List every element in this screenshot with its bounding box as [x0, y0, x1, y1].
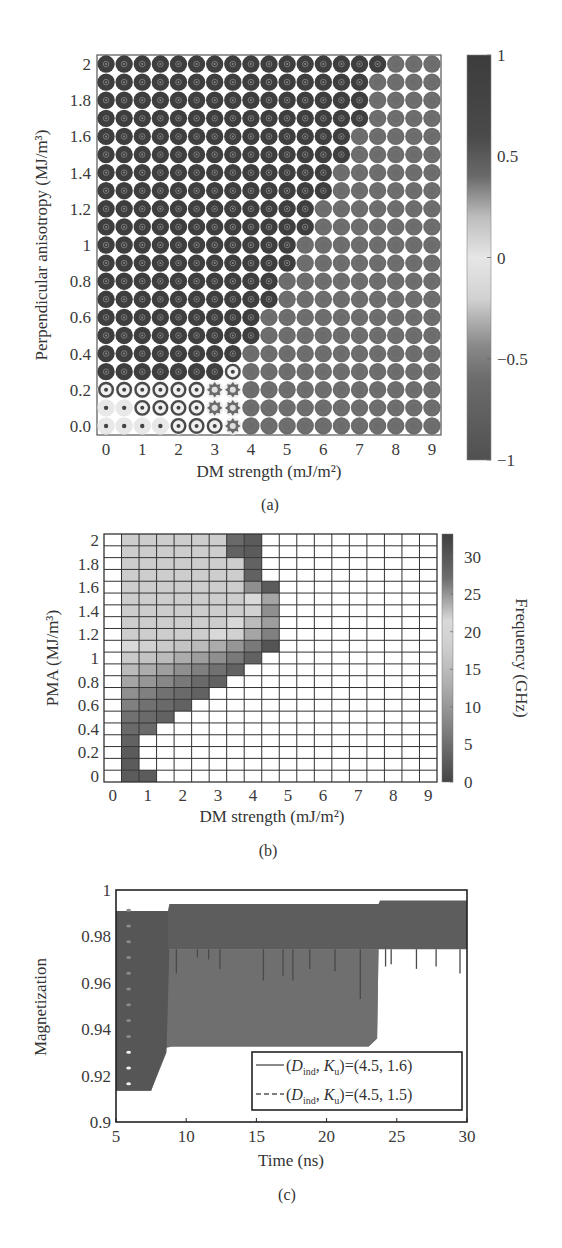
skyrmion-cell: [423, 381, 440, 398]
skyrmion-cell: [315, 218, 332, 235]
heatmap-cell: [174, 688, 192, 700]
skyrmion-cell: [188, 309, 205, 326]
cell-disc: [423, 164, 440, 181]
skyrmion-cell: [369, 55, 386, 72]
heatmap-cell: [122, 711, 140, 723]
skyrmion-cell: [260, 399, 277, 416]
cell-core: [286, 63, 288, 65]
heatmap-cell: [122, 770, 140, 782]
skyrmion-cell: [405, 73, 422, 90]
skyrmion-cell: [115, 110, 132, 127]
y-tick-label: 0.4: [70, 345, 92, 364]
skyrmion-cell: [242, 73, 259, 90]
skyrmion-cell: [260, 345, 277, 362]
heatmap-cell: [122, 593, 140, 605]
cell-disc: [315, 218, 332, 235]
band-speckle: [126, 956, 131, 959]
skyrmion-cell: [351, 236, 368, 253]
skyrmion-cell: [152, 200, 169, 217]
heatmap-cell: [139, 593, 157, 605]
skyrmion-cell: [134, 164, 151, 181]
cell-core: [232, 334, 234, 336]
heatmap-cell: [192, 676, 210, 688]
skyrmion-cell: [405, 345, 422, 362]
heatmap-cell: [122, 652, 140, 664]
cell-disc: [369, 236, 386, 253]
cell-core: [196, 226, 198, 228]
heatmap-cell: [174, 546, 192, 558]
skyrmion-cell: [115, 345, 132, 362]
cell-disc: [387, 146, 404, 163]
skyrmion-cell: [260, 110, 277, 127]
skyrmion-cell: [369, 309, 386, 326]
skyrmion-cell: [405, 381, 422, 398]
panel-b-caption: (b): [259, 842, 278, 860]
cell-disc: [405, 236, 422, 253]
skyrmion-cell: [351, 272, 368, 289]
colorbar-tick-label: 25: [464, 585, 481, 604]
cell-disc: [405, 381, 422, 398]
cell-core: [196, 298, 198, 300]
cell-disc: [369, 218, 386, 235]
skyrmion-cell: [242, 363, 259, 380]
skyrmion-cell: [170, 254, 187, 271]
skyrmion-cell: [170, 236, 187, 253]
skyrmion-cell: [206, 73, 223, 90]
cell-core: [158, 388, 162, 392]
cell-core: [286, 172, 288, 174]
cell-core: [105, 190, 107, 192]
skyrmion-cell: [351, 345, 368, 362]
x-tick-label: 3: [214, 786, 223, 805]
skyrmion-cell: [115, 200, 132, 217]
heatmap-cell: [174, 534, 192, 546]
skyrmion-cell: [315, 345, 332, 362]
cell-core: [176, 424, 180, 428]
cell-core: [250, 63, 252, 65]
skyrmion-cell: [369, 291, 386, 308]
heatmap-cell: [174, 593, 192, 605]
heatmap-cell: [122, 558, 140, 570]
cell-core: [230, 405, 236, 411]
cell-core: [176, 406, 180, 410]
skyrmion-cell: [315, 92, 332, 109]
cell-core: [159, 117, 161, 119]
heatmap-cell: [262, 617, 280, 629]
skyrmion-cell: [206, 92, 223, 109]
cell-core: [286, 99, 288, 101]
cell-core: [105, 226, 107, 228]
cell-core: [232, 63, 234, 65]
skyrmion-cell: [242, 200, 259, 217]
cell-disc: [297, 236, 314, 253]
skyrmion-cell: [278, 146, 295, 163]
skyrmion-cell: [188, 327, 205, 344]
cell-disc: [315, 254, 332, 271]
skyrmion-cell: [152, 236, 169, 253]
skyrmion-cell: [297, 182, 314, 199]
skyrmion-cell: [387, 128, 404, 145]
heatmap-cell: [244, 593, 262, 605]
skyrmion-cell: [278, 164, 295, 181]
cell-disc: [351, 399, 368, 416]
x-tick-label: 2: [179, 786, 188, 805]
colorbar-tick-label: 20: [464, 623, 481, 642]
heatmap-cell: [174, 569, 192, 581]
cell-core: [177, 172, 179, 174]
cell-disc: [333, 363, 350, 380]
x-tick-label: 5: [284, 786, 293, 805]
skyrmion-cell: [224, 381, 241, 398]
panel-c-caption: (c): [278, 1186, 296, 1204]
skyrmion-cell: [134, 399, 151, 416]
skyrmion-cell: [224, 363, 241, 380]
cell-core: [123, 371, 125, 373]
skyrmion-cell: [423, 327, 440, 344]
cell-core: [196, 371, 198, 373]
heatmap-cell: [244, 605, 262, 617]
cell-core: [340, 81, 342, 83]
skyrmion-cell: [188, 73, 205, 90]
skyrmion-cell: [242, 164, 259, 181]
cell-core: [105, 316, 107, 318]
skyrmion-cell: [97, 254, 114, 271]
colorbar-tick-label: −1: [497, 451, 515, 470]
skyrmion-cell: [278, 272, 295, 289]
skyrmion-cell: [97, 182, 114, 199]
